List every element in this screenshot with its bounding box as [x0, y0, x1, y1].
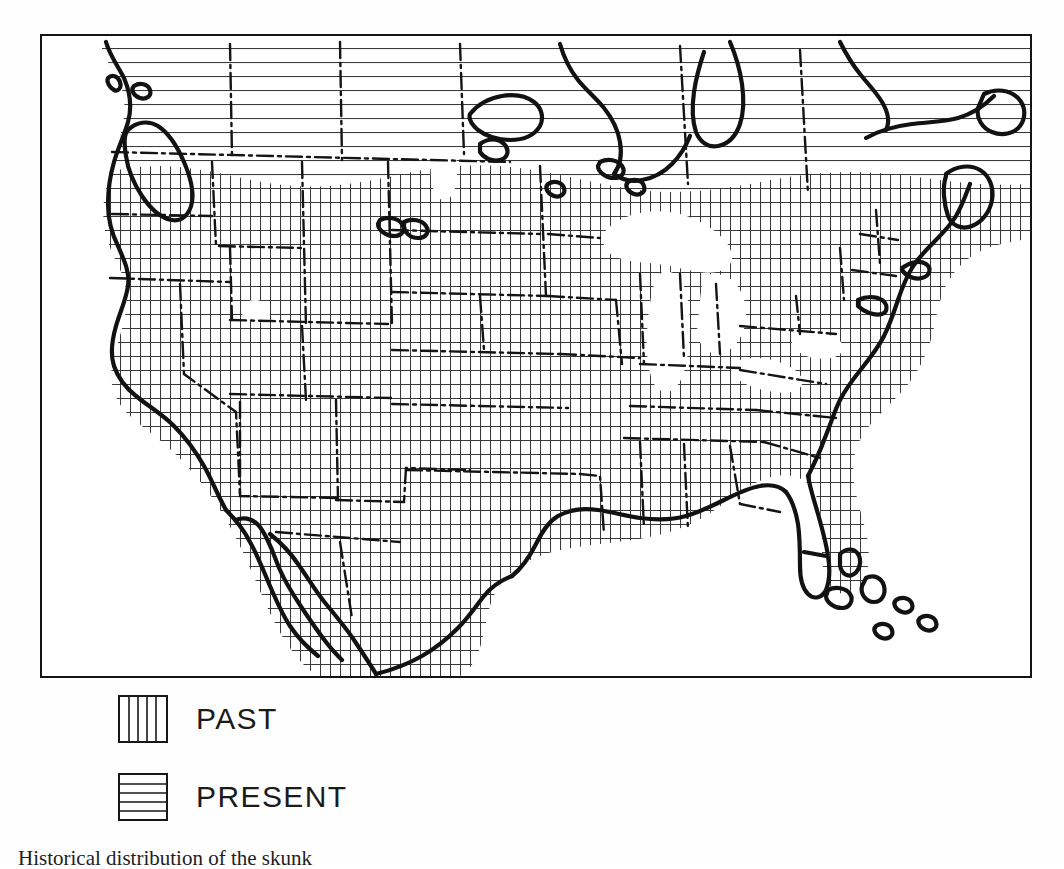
distribution-map-graphic [40, 34, 1032, 678]
distribution-legend: PAST PRESENT [118, 694, 538, 822]
legend-label-present: PRESENT [196, 782, 348, 812]
legend-item-past: PAST [118, 694, 538, 744]
legend-item-present: PRESENT [118, 772, 538, 822]
legend-swatch-past-vertical-hatch [118, 695, 168, 743]
legend-swatch-present-horizontal-hatch [118, 773, 168, 821]
map-frame [40, 34, 1032, 678]
figure-caption: Historical distribution of the skunk [4, 845, 1054, 869]
figure-caption-text: Historical distribution of the skunk [18, 846, 312, 869]
legend-label-past: PAST [196, 704, 278, 734]
